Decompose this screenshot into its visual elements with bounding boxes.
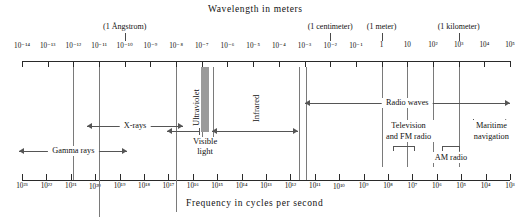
frequency-tick: [144, 174, 145, 180]
frequency-tick-label: 10⁹: [359, 182, 369, 190]
radio-waves-label: Radio waves: [382, 98, 433, 108]
tv-bracket-bar: [393, 146, 415, 147]
frequency-tick: [461, 174, 462, 180]
frequency-tick-label: 10³: [505, 182, 514, 190]
wavelength-tick-label: 10⁻⁵: [246, 41, 260, 50]
frequency-tick: [168, 174, 169, 180]
frequency-tick: [120, 174, 121, 180]
frequency-tick: [290, 174, 291, 180]
frequency-tick: [266, 174, 267, 180]
infrared-range: [212, 127, 299, 136]
wavelength-tick-label: 10⁻¹¹: [91, 41, 107, 50]
frequency-tick-label: 10¹²: [285, 182, 297, 190]
wavelength-tick: [227, 61, 228, 67]
top-axis-title: Wavelength in meters: [208, 4, 303, 14]
frequency-tick: [95, 174, 96, 180]
wavelength-tick: [125, 61, 126, 67]
wavelength-callout-label: (1 Ångstrom): [103, 22, 146, 31]
visible-light-band: [201, 67, 209, 132]
wavelength-callout-label: (1 meter): [367, 22, 397, 31]
wavelength-tick: [48, 61, 49, 67]
wavelength-tick: [150, 61, 151, 67]
wavelength-tick-label: 10⁻⁷: [195, 41, 209, 50]
wavelength-tick-label: 10⁻³: [298, 41, 311, 50]
frequency-tick-label: 10¹⁷: [162, 182, 174, 190]
band-separator-rule: [306, 67, 307, 180]
band-separator-rule: [99, 67, 100, 217]
frequency-tick: [388, 174, 389, 180]
wavelength-tick: [253, 61, 254, 67]
frequency-tick-label: 10⁶: [432, 182, 442, 190]
frequency-tick-label: 10¹⁰: [333, 182, 345, 191]
gamma-rays-label: Gamma rays: [48, 146, 98, 156]
tv-bracket-left: [393, 146, 394, 151]
band-separator-rule: [407, 67, 408, 167]
wavelength-tick: [356, 61, 357, 67]
wavelength-tick-label: 10⁻⁶: [221, 41, 235, 50]
ultraviolet-range: [167, 127, 200, 136]
gamma-rays-range: Gamma rays: [19, 147, 127, 156]
television-fm-radio-label: Television and FM radio: [383, 120, 434, 142]
frequency-tick-label: 10⁵: [456, 182, 466, 190]
wavelength-callout-stem: [382, 33, 383, 41]
frequency-tick-label: 10¹³: [260, 182, 272, 190]
frequency-tick: [315, 174, 316, 180]
frequency-tick: [193, 174, 194, 180]
frequency-tick: [486, 174, 487, 180]
am-bracket-right: [459, 146, 460, 151]
infrared-arrow-right: [293, 128, 298, 134]
frequency-tick: [71, 174, 72, 180]
am-bracket-left: [442, 146, 443, 151]
band-separator-rule: [176, 67, 177, 212]
frequency-tick: [364, 174, 365, 180]
wavelength-callout-stem: [330, 33, 331, 41]
am-radio-label: AM radio: [432, 152, 471, 163]
wavelength-tick-label: 10²: [428, 41, 437, 49]
frequency-tick-label: 10¹⁹: [114, 182, 126, 190]
bottom-axis-title: Frequency in cycles per second: [186, 198, 323, 208]
frequency-tick-label: 10⁸: [383, 182, 393, 190]
frequency-tick: [242, 174, 243, 180]
frequency-tick: [412, 174, 413, 180]
wavelength-tick-label: 1: [380, 41, 384, 49]
frequency-tick-label: 10⁴: [481, 182, 491, 190]
wavelength-tick-label: 10⁻²: [324, 41, 337, 50]
ultraviolet-rule: [167, 131, 200, 132]
band-separator-rule: [73, 67, 74, 180]
frequency-tick: [217, 174, 218, 180]
wavelength-tick-label: 10: [404, 41, 411, 49]
wavelength-tick-label: 10⁵: [505, 41, 515, 49]
wavelength-tick: [330, 61, 331, 67]
frequency-tick-label: 10¹⁴: [236, 182, 248, 190]
infrared-arrow-left: [212, 128, 217, 134]
frequency-tick: [22, 174, 23, 180]
television-line2: and FM radio: [386, 131, 431, 142]
maritime-line2: navigation: [474, 131, 509, 142]
frequency-tick-label: 10²¹: [65, 182, 77, 190]
frequency-tick-label: 10¹⁸: [138, 182, 150, 190]
frequency-tick-label: 10²³: [16, 182, 28, 190]
wavelength-tick-label: 10⁴: [479, 41, 489, 49]
wavelength-tick-label: 10⁻¹³: [40, 41, 56, 50]
visible-light-line1: Visible: [193, 136, 217, 146]
frequency-tick: [46, 174, 47, 180]
band-separator-rule: [382, 67, 383, 167]
radio-waves-range: Radio waves: [305, 99, 510, 108]
ultraviolet-label: Ultraviolet: [191, 89, 201, 126]
gamma-rays-arrow-right: [122, 148, 127, 154]
x-rays-label: X-rays: [120, 121, 151, 131]
ultraviolet-cap-right: [199, 128, 200, 135]
radio-waves-arrow-right: [505, 100, 510, 106]
frequency-axis-line: [22, 180, 510, 181]
am-bracket-bar: [442, 146, 460, 147]
wavelength-tick-label: 10⁻¹⁴: [14, 41, 30, 50]
wavelength-tick: [510, 61, 511, 67]
maritime-navigation-label: Maritime navigation: [471, 120, 512, 142]
wavelength-callout-stem: [125, 33, 126, 41]
wavelength-callout-label: (1 centimeter): [308, 22, 353, 31]
tv-bracket-right: [414, 146, 415, 151]
frequency-tick-label: 10¹⁶: [187, 182, 199, 190]
wavelength-tick-label: 10⁻⁴: [272, 41, 286, 50]
frequency-tick-label: 10⁷: [408, 182, 418, 190]
wavelength-tick-label: 10⁻⁹: [144, 41, 158, 50]
